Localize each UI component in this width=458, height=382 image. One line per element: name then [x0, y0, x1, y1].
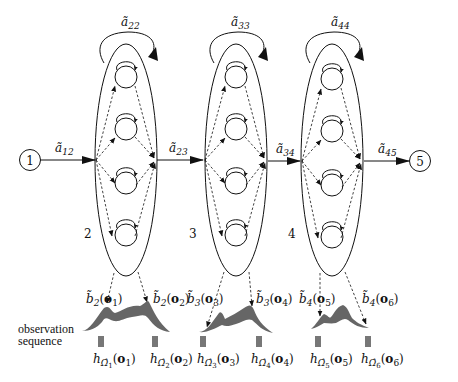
- inner-state: [321, 116, 343, 142]
- exit-node: 5: [410, 151, 431, 172]
- self-loop-label-a33: ã33: [231, 15, 250, 31]
- observation-sequence-label: observation sequence: [18, 322, 74, 348]
- transition-label-a12: ã12: [55, 141, 74, 157]
- emission-label-b4-o5: b̃4(o5): [299, 290, 336, 308]
- macro-state-label-2: 2: [84, 227, 92, 241]
- svg-text:sequence: sequence: [18, 334, 62, 348]
- transition-label-a45: ã45: [378, 142, 397, 158]
- svg-text:hΩ̂4(o4): hΩ̂4(o4): [251, 352, 294, 370]
- svg-text:b̃3(o3): b̃3(o3): [187, 290, 224, 308]
- inner-state: [115, 220, 137, 246]
- svg-text:5: 5: [416, 155, 424, 169]
- observation-label-3: hΩ̂3(o3): [197, 352, 240, 370]
- svg-text:hΩ̂1(o1): hΩ̂1(o1): [93, 352, 136, 370]
- svg-text:ã44: ã44: [331, 15, 350, 31]
- emission-label-b2-o1: b̃2(o1): [86, 290, 123, 308]
- macro-state-label-4: 4: [288, 227, 296, 241]
- svg-text:hΩ̂6(o6): hΩ̂6(o6): [361, 352, 404, 370]
- svg-text:b̃4(o6): b̃4(o6): [362, 290, 399, 308]
- svg-text:b̃3(o4): b̃3(o4): [256, 290, 293, 308]
- svg-text:b̃4(o5): b̃4(o5): [299, 290, 336, 308]
- svg-text:ã23: ã23: [169, 141, 188, 157]
- emission-label-b2-o2: b̃2(o2): [153, 290, 190, 308]
- inner-state: [115, 62, 137, 88]
- self-loop-label-a22: ã22: [121, 15, 140, 31]
- emission-label-b3-o3: b̃3(o3): [187, 290, 224, 308]
- observation-label-1: hΩ̂1(o1): [93, 352, 136, 370]
- transition-label-a34: ã34: [276, 142, 295, 158]
- observation-label-2: hΩ̂2(o2): [150, 352, 193, 370]
- inner-state: [225, 168, 247, 194]
- svg-text:1: 1: [26, 154, 34, 168]
- observation-label-4: hΩ̂4(o4): [251, 352, 294, 370]
- svg-text:hΩ̂3(o3): hΩ̂3(o3): [197, 352, 240, 370]
- svg-text:ã33: ã33: [231, 15, 250, 31]
- inner-state: [115, 168, 137, 194]
- observation-label-5: hΩ̂5(o5): [310, 352, 353, 370]
- emission-density-3: [199, 306, 273, 333]
- svg-text:b̃2(o1): b̃2(o1): [86, 290, 123, 308]
- emission-label-b3-o4: b̃3(o4): [256, 290, 293, 308]
- entry-node: 1: [20, 150, 41, 171]
- inner-state: [225, 62, 247, 88]
- macro-state-2: [95, 32, 158, 303]
- svg-text:hΩ̂2(o2): hΩ̂2(o2): [150, 352, 193, 370]
- macro-state-4: [301, 32, 366, 324]
- macro-state-3: [205, 32, 268, 327]
- inner-state: [225, 114, 247, 140]
- transition-label-a23: ã23: [169, 141, 188, 157]
- hmm-diagram: 1 5 ã12 ã23 ã34 ã45: [0, 0, 458, 382]
- inner-state: [225, 220, 247, 246]
- emission-density-4: [311, 305, 369, 329]
- svg-text:ã22: ã22: [121, 15, 140, 31]
- svg-text:ã45: ã45: [378, 142, 397, 158]
- inner-state: [321, 170, 343, 196]
- self-loop-label-a44: ã44: [331, 15, 350, 31]
- inner-state: [321, 64, 343, 90]
- macro-state-label-3: 3: [189, 227, 197, 241]
- svg-text:ã34: ã34: [276, 142, 295, 158]
- observation-symbols: [98, 336, 371, 347]
- svg-text:b̃2(o2): b̃2(o2): [153, 290, 190, 308]
- observation-label-6: hΩ̂6(o6): [361, 352, 404, 370]
- svg-text:hΩ̂5(o5): hΩ̂5(o5): [310, 352, 353, 370]
- svg-text:ã12: ã12: [55, 141, 74, 157]
- emission-label-b4-o6: b̃4(o6): [362, 290, 399, 308]
- inner-state: [321, 222, 343, 248]
- inner-state: [115, 114, 137, 140]
